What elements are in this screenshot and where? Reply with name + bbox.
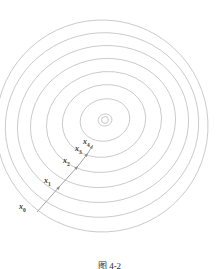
arrowhead-x4 [90,145,93,149]
path-segment-x1-x2 [60,166,78,186]
iterate-label-x2: x2 [63,157,70,167]
optimum-center-marker [102,117,109,124]
iterate-label-subscript: 2 [67,161,70,167]
contour-line-6 [1,28,206,221]
contour-line-4 [36,59,173,184]
contour-line-3 [55,76,154,166]
iterate-label-x0: x0 [19,203,26,213]
iterate-label-subscript: 0 [23,207,26,213]
iterate-label-x4: x4 [83,138,90,148]
iterate-markers-group [102,117,109,124]
contour-line-8 [0,0,219,254]
iterate-label-x1: x1 [44,177,51,187]
contour-line-1 [97,112,113,127]
iterate-label-subscript: 3 [79,149,82,155]
figure-caption: 图 4-2 [0,259,219,269]
iterate-label-subscript: 4 [87,142,90,148]
iterate-label-x3: x3 [75,145,82,155]
path-segment-x0-x1 [37,186,60,212]
iterate-label-subscript: 1 [48,181,51,187]
contour-lines-group [0,0,219,254]
